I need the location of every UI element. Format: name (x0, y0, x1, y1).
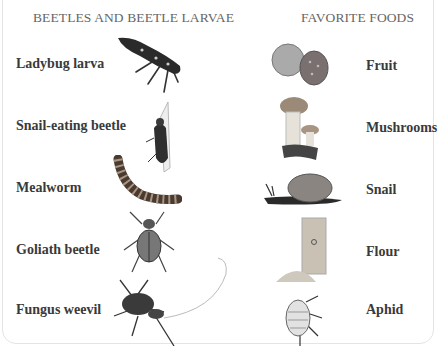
beetle-label-mealworm[interactable]: Mealworm (16, 180, 81, 196)
beetle-label-ladybug-larva[interactable]: Ladybug larva (16, 56, 104, 72)
foods-header: FAVORITE FOODS (301, 10, 414, 26)
mealworm-image[interactable] (112, 155, 182, 205)
flour-image[interactable] (274, 216, 334, 286)
mushrooms-image[interactable] (276, 96, 326, 166)
beetle-label-goliath-beetle[interactable]: Goliath beetle (16, 242, 100, 258)
beetle-label-fungus-weevil[interactable]: Fungus weevil (16, 302, 101, 318)
snail-image[interactable] (262, 168, 346, 208)
ladybug-larva-image[interactable] (112, 32, 192, 102)
aphid-image[interactable] (276, 292, 326, 346)
beetle-label-snail-eating-beetle[interactable]: Snail-eating beetle (16, 118, 126, 134)
food-label-flour[interactable]: Flour (366, 244, 399, 260)
food-label-snail[interactable]: Snail (366, 182, 396, 198)
food-label-mushrooms[interactable]: Mushrooms (366, 120, 437, 136)
fungus-weevil-image[interactable] (104, 250, 244, 346)
fruit-image[interactable] (270, 36, 340, 96)
beetles-header: BEETLES AND BEETLE LARVAE (33, 10, 234, 26)
food-label-fruit[interactable]: Fruit (366, 58, 397, 74)
food-label-aphid[interactable]: Aphid (366, 302, 403, 318)
